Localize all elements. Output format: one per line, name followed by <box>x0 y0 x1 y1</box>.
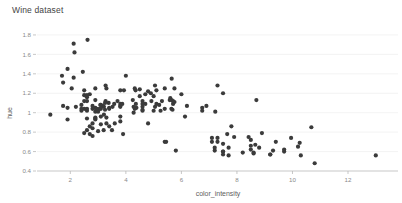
data-point <box>268 152 272 156</box>
data-point <box>95 107 99 111</box>
data-point <box>132 111 136 115</box>
data-point <box>72 42 76 46</box>
data-point <box>185 104 189 108</box>
data-point <box>179 92 183 96</box>
data-point <box>99 114 103 118</box>
data-point <box>93 86 97 90</box>
data-point <box>140 108 144 112</box>
data-point <box>183 114 187 118</box>
data-point <box>74 105 78 109</box>
data-point <box>160 99 164 103</box>
data-point <box>82 88 86 92</box>
data-point <box>168 98 172 102</box>
data-point <box>85 109 89 113</box>
data-point <box>249 144 253 148</box>
data-point <box>85 116 89 120</box>
x-tick-label: 10 <box>289 176 296 183</box>
data-point <box>229 124 233 128</box>
data-point <box>61 80 65 84</box>
data-point <box>232 135 236 139</box>
data-point <box>93 98 97 102</box>
data-point <box>215 136 219 140</box>
data-point <box>257 146 261 150</box>
data-point <box>213 110 217 114</box>
data-point <box>103 108 107 112</box>
data-point <box>122 88 126 92</box>
y-tick-label: 1 <box>28 109 32 116</box>
data-point <box>174 148 178 152</box>
data-point <box>118 114 122 118</box>
x-tick-label: 2 <box>69 176 73 183</box>
data-point <box>154 102 158 106</box>
data-point <box>152 109 156 113</box>
data-point <box>88 124 92 128</box>
data-point <box>65 106 69 110</box>
data-point <box>241 150 245 154</box>
data-point <box>158 109 162 113</box>
data-point <box>299 153 303 157</box>
data-point <box>215 83 219 87</box>
data-point <box>98 103 102 107</box>
data-point <box>96 129 100 133</box>
data-point <box>90 134 94 138</box>
y-tick-label: 0.4 <box>22 167 31 174</box>
data-point <box>65 117 69 121</box>
data-point <box>153 83 157 87</box>
data-point <box>93 115 97 119</box>
data-point <box>164 140 168 144</box>
data-point <box>85 38 89 42</box>
data-point <box>170 77 174 81</box>
y-tick-label: 0.8 <box>22 128 31 135</box>
data-point <box>61 104 65 108</box>
data-point <box>163 107 167 111</box>
data-point <box>99 107 103 111</box>
data-point <box>215 140 219 144</box>
data-point <box>204 104 208 108</box>
chart-figure: Wine dataset 24681012 0.40.60.811.21.41.… <box>0 0 402 203</box>
y-tick-label: 1.6 <box>22 51 31 58</box>
data-point <box>132 105 136 109</box>
data-point <box>79 103 83 107</box>
y-tick-label: 1.8 <box>22 31 31 38</box>
data-point <box>72 50 76 54</box>
data-point <box>200 109 204 113</box>
data-point <box>140 102 144 106</box>
data-point <box>133 88 137 92</box>
data-point <box>149 91 153 95</box>
data-point <box>227 153 231 157</box>
data-point <box>149 99 153 103</box>
x-tick-label: 8 <box>235 176 239 183</box>
data-point <box>121 132 125 136</box>
data-point <box>107 107 111 111</box>
y-tick-label: 1.2 <box>22 89 31 96</box>
data-point <box>221 149 225 153</box>
data-points <box>48 38 378 166</box>
data-point <box>90 104 94 108</box>
data-point <box>249 148 253 152</box>
data-point <box>221 142 225 146</box>
data-point <box>172 100 176 104</box>
data-point <box>313 161 317 165</box>
data-point <box>143 92 147 96</box>
data-point <box>298 141 302 145</box>
data-point <box>107 124 111 128</box>
data-point <box>124 74 128 78</box>
data-point <box>131 98 135 102</box>
data-point <box>85 99 89 103</box>
data-point <box>104 86 108 90</box>
y-axis-ticks: 0.40.60.811.21.41.61.8 <box>22 31 36 174</box>
data-point <box>221 91 225 95</box>
data-point <box>170 108 174 112</box>
data-point <box>254 98 258 102</box>
y-tick-label: 1.4 <box>22 70 31 77</box>
data-point <box>85 128 89 132</box>
data-point <box>118 119 122 123</box>
data-point <box>138 87 142 91</box>
x-tick-label: 6 <box>180 176 184 183</box>
data-point <box>154 88 158 92</box>
data-point <box>70 86 74 90</box>
data-point <box>253 143 257 147</box>
data-point <box>146 121 150 125</box>
data-point <box>102 128 106 132</box>
data-point <box>271 148 275 152</box>
